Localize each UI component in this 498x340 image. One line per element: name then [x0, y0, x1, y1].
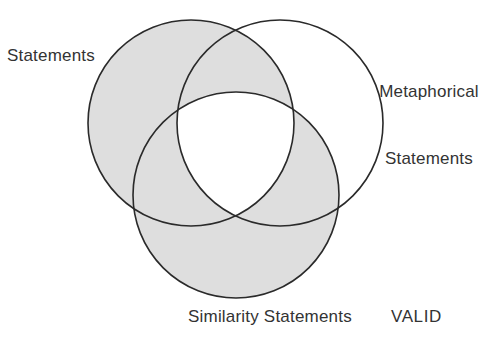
label-valid: VALID: [391, 306, 442, 328]
label-metaphorical-line-2: Statements: [368, 148, 490, 170]
label-statements: Statements: [7, 45, 95, 67]
shaded-region-group: [88, 20, 339, 298]
shaded-region-bottom-circle: [133, 92, 339, 298]
venn-diagram-figure: Statements Metaphorical Statements Simil…: [0, 0, 498, 340]
label-metaphorical-statements: Metaphorical Statements: [368, 36, 490, 216]
label-metaphorical-line-1: Metaphorical: [368, 81, 490, 103]
label-similarity-statements: Similarity Statements: [188, 306, 352, 328]
